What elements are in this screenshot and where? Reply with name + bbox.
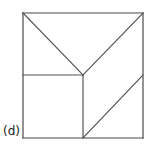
tangram-svg bbox=[0, 0, 150, 150]
panel-label: (d) bbox=[3, 124, 20, 138]
tangram-figure: (d) bbox=[0, 0, 150, 150]
